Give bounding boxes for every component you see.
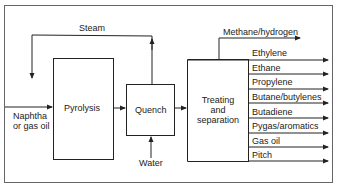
pyrolysis-label: Pyrolysis — [64, 103, 100, 113]
water-label: Water — [139, 158, 163, 168]
quench-label: Quench — [135, 105, 167, 115]
treating-label-line2: and — [189, 105, 247, 115]
methane-label: Methane/hydrogen — [223, 27, 298, 37]
feed-label-line1: Naphtha — [13, 111, 47, 121]
treating-label-line3: separation — [189, 115, 247, 125]
product-butadiene: Butadiene — [252, 107, 293, 117]
product-ethane: Ethane — [252, 63, 281, 73]
feed-label-line2: or gas oil — [13, 121, 50, 131]
steam-label: Steam — [79, 23, 105, 33]
steam-line — [32, 35, 152, 84]
treating-label-line1: Treating — [189, 95, 247, 105]
product-pitch: Pitch — [252, 150, 272, 160]
product-butane-butylenes: Butane/butylenes — [252, 92, 322, 102]
product-gas-oil: Gas oil — [252, 136, 280, 146]
product-ethylene: Ethylene — [252, 48, 287, 58]
product-propylene: Propylene — [252, 77, 293, 87]
product-pygas-aromatics: Pygas/aromatics — [252, 121, 319, 131]
